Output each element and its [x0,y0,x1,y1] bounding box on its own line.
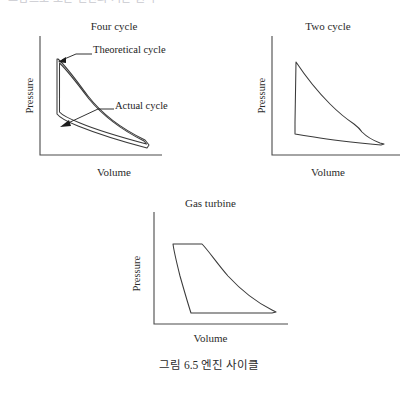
panel-four-cycle: Four cycle Pressure Volume Theoretical c… [14,14,214,189]
panel-gas-turbine: Gas turbine Pressure Volume [118,192,303,367]
curve-two-cycle [295,62,384,145]
panel-two-cycle: Two cycle Pressure Volume [248,14,408,189]
chart-two-cycle [248,14,408,189]
arrowhead-actual [60,120,71,127]
leader-stem-actual [66,109,98,124]
callout-actual-cycle: Actual cycle [115,100,168,112]
clipped-page-heading: 그림으로 보는 엔진의 기본 원리 [8,0,268,5]
chart-four-cycle [14,14,214,189]
curve-gas-turbine [173,244,276,313]
chart-gas-turbine [118,192,303,367]
axes-two-cycle [272,36,400,155]
figure-caption: 그림 6.5 엔진 사이클 [0,358,418,373]
callout-theoretical-cycle: Theoretical cycle [93,44,166,56]
